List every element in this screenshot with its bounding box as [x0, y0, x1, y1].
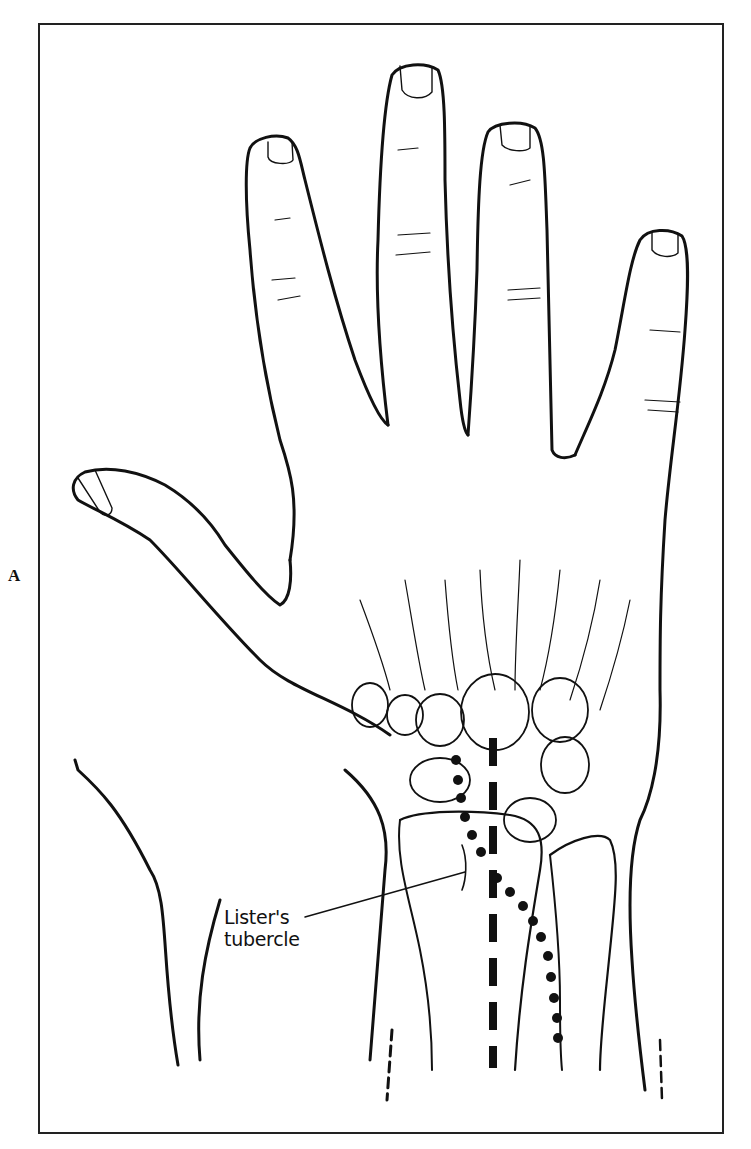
listers-tubercle-shape — [462, 845, 466, 890]
radius-left — [399, 820, 432, 1070]
listers-tubercle-label: Lister's tubercle — [224, 906, 300, 950]
carpal-bones — [352, 674, 589, 842]
forearm-left-dash — [387, 1030, 392, 1100]
index-finger-outline — [246, 136, 388, 560]
forearm-right-dash — [660, 1040, 662, 1100]
middle-finger-outline — [377, 65, 468, 435]
ring-finger-outline — [468, 123, 575, 458]
hand-illustration — [0, 0, 751, 1149]
metacarpal-lines — [360, 560, 630, 710]
radius-outline — [400, 812, 542, 1070]
forearm-left-edge — [345, 770, 386, 1060]
nail-middle — [400, 66, 432, 98]
dotted-line — [451, 755, 563, 1043]
little-finger-outline — [575, 230, 688, 1090]
label-line-2: tubercle — [224, 928, 300, 950]
nail-little — [652, 233, 678, 256]
thumb-outline — [73, 469, 390, 735]
label-line-1: Lister's — [224, 906, 300, 928]
nail-index — [268, 142, 293, 163]
hand-outline — [75, 760, 220, 1065]
nail-ring — [500, 125, 530, 151]
